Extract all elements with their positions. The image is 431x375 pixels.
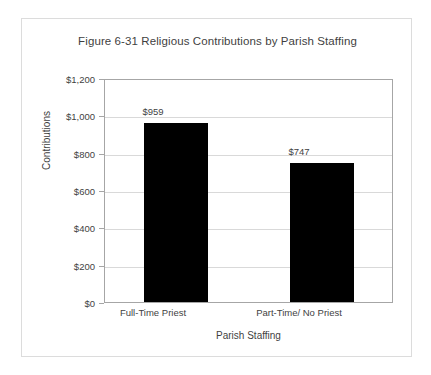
y-tick-label: $1,000 bbox=[66, 111, 95, 122]
y-tick-label: $600 bbox=[74, 186, 95, 197]
y-tick-label: $200 bbox=[74, 260, 95, 271]
y-tick-label: $400 bbox=[74, 223, 95, 234]
y-axis-tick bbox=[99, 303, 104, 304]
x-axis-title: Parish Staffing bbox=[104, 330, 393, 341]
bar-full-time-priest bbox=[144, 123, 208, 302]
y-tick-label: $800 bbox=[74, 148, 95, 159]
y-axis-tick-labels: $1,200 $1,000 $800 $600 $400 $200 $0 bbox=[22, 19, 95, 358]
bar-part-time-no-priest bbox=[290, 163, 354, 302]
y-tick-label: $1,200 bbox=[66, 74, 95, 85]
bar-value-label: $747 bbox=[267, 146, 331, 157]
x-tick-label-full-time-priest: Full-Time Priest bbox=[98, 307, 208, 318]
gridline bbox=[105, 117, 392, 118]
chart-figure: Figure 6-31 Religious Contributions by P… bbox=[21, 18, 412, 357]
bar-value-label: $959 bbox=[121, 106, 185, 117]
y-tick-label: $0 bbox=[84, 298, 95, 309]
x-tick-label-part-time-no-priest: Part-Time/ No Priest bbox=[244, 307, 354, 318]
